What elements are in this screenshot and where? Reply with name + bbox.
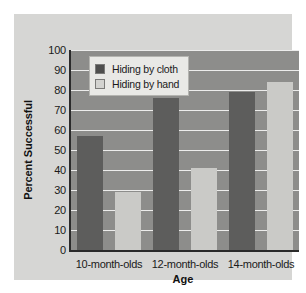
x-axis-title: Age — [173, 273, 194, 285]
x-axis-tick-label: 14-month-olds — [228, 258, 294, 270]
bar — [267, 82, 293, 250]
legend-item-label: Hiding by cloth — [112, 63, 178, 75]
bar — [115, 192, 141, 250]
bar — [229, 92, 255, 250]
y-axis-tick-label: 50 — [54, 144, 66, 156]
gridline — [71, 230, 299, 231]
gridline — [71, 130, 299, 131]
gridline — [71, 150, 299, 151]
legend-item: Hiding by cloth — [95, 61, 179, 76]
y-axis-tick-label: 0 — [60, 244, 66, 256]
legend-item-label: Hiding by hand — [112, 78, 179, 90]
gridline — [71, 210, 299, 211]
chart-figure-panel: Percent Successful 010203040506070809010… — [14, 14, 292, 280]
y-axis-tick-label: 30 — [54, 184, 66, 196]
legend-swatch-icon — [95, 79, 105, 89]
gridline — [71, 170, 299, 171]
x-axis-tick-label: 10-month-olds — [76, 258, 142, 270]
legend-swatch-icon — [95, 64, 105, 74]
y-axis-tick-label: 90 — [54, 64, 66, 76]
plot-area: 0102030405060708090100 10-month-olds12-m… — [69, 50, 299, 252]
bar — [153, 98, 179, 250]
y-axis-tick-label: 20 — [54, 204, 66, 216]
x-axis-tick-label: 12-month-olds — [152, 258, 218, 270]
y-axis-tick-label: 60 — [54, 124, 66, 136]
gridline — [71, 190, 299, 191]
y-axis-tick-label: 100 — [48, 44, 66, 56]
gridline — [71, 110, 299, 111]
bar — [191, 168, 217, 250]
gridline — [71, 50, 299, 51]
chart-legend: Hiding by clothHiding by hand — [89, 56, 189, 96]
y-axis-title: Percent Successful — [22, 100, 34, 200]
bar — [77, 136, 103, 250]
y-axis-tick-label: 80 — [54, 84, 66, 96]
legend-item: Hiding by hand — [95, 76, 179, 91]
y-axis-tick-label: 70 — [54, 104, 66, 116]
y-axis-tick-label: 10 — [54, 224, 66, 236]
y-axis-tick-label: 40 — [54, 164, 66, 176]
